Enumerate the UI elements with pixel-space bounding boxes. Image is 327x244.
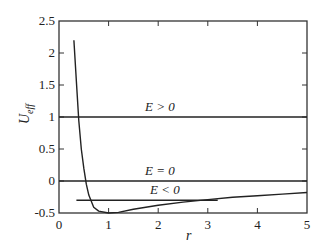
y-tick-label: -0.5 [34, 205, 55, 220]
x-axis-title: r [186, 228, 192, 243]
x-tick-label: 5 [304, 217, 311, 232]
x-tick-label: 3 [205, 217, 212, 232]
y-tick-label: 1.5 [39, 77, 55, 92]
x-tick-label: 2 [155, 217, 162, 232]
x-tick-label: 4 [254, 217, 261, 232]
annotation-e-positive: E > 0 [144, 99, 175, 114]
y-tick-label: 0 [49, 173, 56, 188]
y-tick-label: 0.5 [39, 141, 55, 156]
svg-text:Ueff: Ueff [17, 103, 35, 124]
y-tick-label: 2 [49, 45, 56, 60]
y-axis-title: Ueff [17, 103, 35, 124]
data-series [59, 40, 307, 213]
y-tick-label: 2.5 [39, 13, 55, 28]
axis-ticks: 012345-0.500.511.522.5 [34, 13, 310, 232]
x-tick-label: 1 [105, 217, 112, 232]
annotation-e-negative: E < 0 [149, 182, 180, 197]
series-line [74, 40, 307, 213]
y-tick-label: 1 [49, 109, 56, 124]
annotation-e-zero: E = 0 [144, 163, 175, 178]
chart: 012345-0.500.511.522.5 E > 0 E = 0 E < 0… [0, 0, 327, 244]
x-tick-label: 0 [56, 217, 63, 232]
